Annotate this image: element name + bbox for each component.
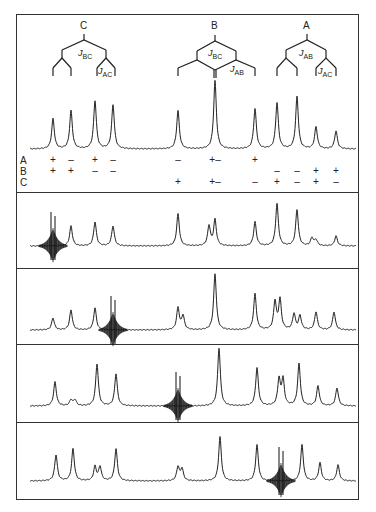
sign-b: +	[46, 165, 60, 176]
sign-b: –	[88, 165, 102, 176]
spectrum-trace	[30, 348, 356, 406]
sign-b: –	[106, 165, 120, 176]
coupling-label-jbc: JBC	[78, 48, 92, 60]
sign-row-label-a: A	[20, 155, 27, 166]
sign-c: +	[309, 176, 323, 187]
spectrum-trace	[30, 80, 356, 149]
sign-b: +	[64, 165, 78, 176]
sign-a: +	[46, 154, 60, 165]
coupling-label-jac: JAC	[98, 66, 112, 78]
coupling-label-jbc: JBC	[208, 48, 222, 60]
sign-b: –	[290, 165, 304, 176]
sign-c: –	[329, 176, 343, 187]
irradiation-artifact	[39, 212, 67, 262]
coupling-label-jac: JAC	[318, 66, 332, 78]
sign-a: –	[106, 154, 120, 165]
sign-a: –	[171, 154, 185, 165]
tree-label-a: A	[303, 20, 310, 31]
coupling-label-jab: JAB	[299, 48, 313, 60]
sign-c: –	[248, 176, 262, 187]
sign-a: +	[88, 154, 102, 165]
spectrum-trace	[30, 437, 356, 482]
irradiation-artifact	[267, 447, 295, 497]
sign-c: +	[171, 176, 185, 187]
sign-a: +	[248, 154, 262, 165]
sign-a: –	[64, 154, 78, 165]
spectrum-trace	[30, 203, 356, 246]
sign-row-label-b: B	[20, 166, 27, 177]
sign-b: +	[329, 165, 343, 176]
sign-a: +–	[208, 154, 222, 165]
irradiation-artifact	[99, 296, 127, 346]
sign-b: +	[309, 165, 323, 176]
tree-label-b: B	[211, 20, 218, 31]
tree-label-c: C	[80, 20, 87, 31]
sign-c: +–	[208, 176, 222, 187]
coupling-label-jab: JAB	[230, 64, 244, 76]
irradiation-artifact	[164, 372, 192, 422]
sign-b: –	[270, 165, 284, 176]
spectrum-trace	[30, 274, 356, 331]
sign-c: –	[290, 176, 304, 187]
sign-c: +	[270, 176, 284, 187]
sign-row-label-c: C	[20, 177, 27, 188]
